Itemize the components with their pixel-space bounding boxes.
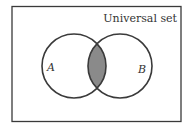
universal-set-label: Universal set xyxy=(103,12,177,25)
set-b-label: B xyxy=(137,63,146,76)
venn-diagram: Universal set A B xyxy=(0,0,190,131)
set-a-label: A xyxy=(46,61,55,74)
